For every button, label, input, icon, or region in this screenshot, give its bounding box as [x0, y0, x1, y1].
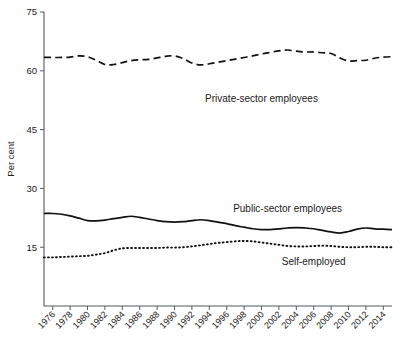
x-tick-label: 1994	[192, 309, 213, 330]
x-tick-label: 1998	[227, 309, 248, 330]
series-line-private-sector	[44, 50, 392, 65]
x-tick-label: 1990	[158, 309, 179, 330]
x-tick-label: 1980	[71, 309, 92, 330]
x-tick-label: 2000	[245, 309, 266, 330]
y-axis-title: Per cent	[5, 141, 16, 177]
x-tick-label: 1978	[53, 309, 74, 330]
x-tick-label: 2004	[279, 309, 300, 330]
series-label-self-employed: Self-employed	[282, 256, 346, 267]
x-tick-label: 1988	[140, 309, 161, 330]
x-tick-label: 1982	[88, 309, 109, 330]
y-tick-label: 15	[26, 242, 37, 253]
x-tick-label: 2014	[366, 309, 387, 330]
x-tick-label: 1984	[105, 309, 126, 330]
x-tick-label: 1986	[123, 309, 144, 330]
series-label-private-sector-employees: Private-sector employees	[205, 93, 318, 104]
y-tick-label: 75	[26, 6, 37, 17]
y-tick-label: 30	[26, 183, 37, 194]
x-tick-label: 2002	[262, 309, 283, 330]
x-tick-label: 2006	[297, 309, 318, 330]
x-tick-label: 2012	[349, 309, 370, 330]
series-line-public-sector	[44, 213, 392, 233]
chart-figure: 1530456075Per cent1976197819801982198419…	[0, 0, 406, 354]
x-tick-label: 1996	[210, 309, 231, 330]
x-tick-label: 2008	[314, 309, 335, 330]
line-chart: 1530456075Per cent1976197819801982198419…	[0, 0, 406, 354]
x-tick-label: 1976	[36, 309, 57, 330]
x-tick-label: 2010	[332, 309, 353, 330]
y-tick-label: 60	[26, 65, 37, 76]
y-tick-label: 45	[26, 124, 37, 135]
x-tick-label: 1992	[175, 309, 196, 330]
series-label-public-sector-employees: Public-sector employees	[233, 203, 342, 214]
